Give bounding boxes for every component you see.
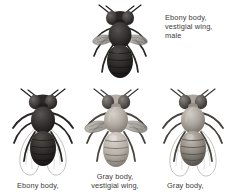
fruit-fly-phenotype-figure: Ebony body, vestigial wing, male [0, 0, 231, 196]
fly-ebony-long-wing [8, 87, 78, 179]
label-ebony-long-wing: Ebony body, [17, 181, 59, 190]
vestigial-wing-right [125, 121, 147, 133]
fly-gray-vestigial-wing [82, 87, 150, 179]
vestigial-wing-left [85, 121, 107, 133]
fly-ebony-vestigial-male [88, 4, 152, 80]
label-ebony-vestigial-male: Ebony body, vestigial wing, male [165, 13, 213, 41]
label-gray-long-wing: Gray body, [167, 181, 204, 190]
fly-gray-long-wing [158, 87, 228, 179]
label-gray-vestigial-wing: Gray body, vestigial wing, [80, 172, 150, 190]
